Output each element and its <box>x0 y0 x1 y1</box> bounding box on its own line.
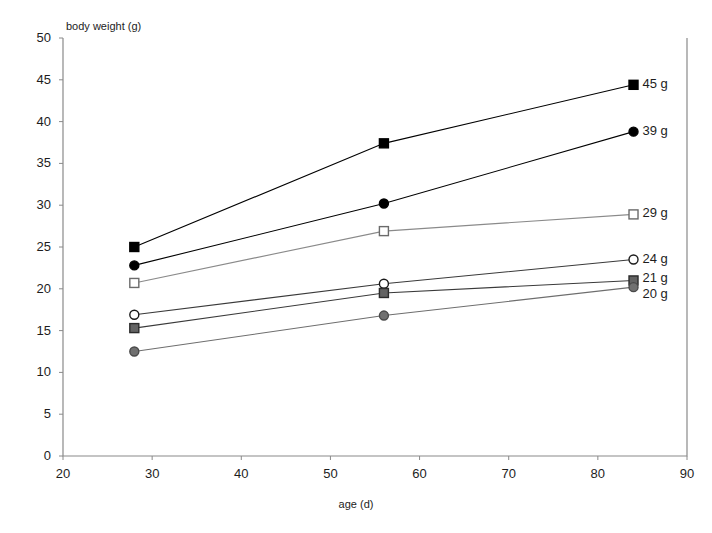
series-line-29-g <box>134 214 633 283</box>
x-tick-label: 40 <box>221 466 261 481</box>
series-line-45-g <box>134 85 633 247</box>
series-label-45-g: 45 g <box>643 76 668 91</box>
marker-filled-square <box>629 80 638 89</box>
marker-filled-circle <box>379 199 388 208</box>
series-label-39-g: 39 g <box>643 123 668 138</box>
x-tick-label: 60 <box>400 466 440 481</box>
marker-gray-circle <box>379 311 388 320</box>
y-tick-label: 50 <box>11 30 51 45</box>
y-tick-label: 40 <box>11 114 51 129</box>
y-tick-label: 45 <box>11 72 51 87</box>
marker-open-square <box>629 210 638 219</box>
x-tick-label: 50 <box>310 466 350 481</box>
marker-gray-square <box>130 324 139 333</box>
marker-gray-circle <box>629 283 638 292</box>
marker-gray-square <box>379 288 388 297</box>
y-tick-label: 0 <box>11 448 51 463</box>
y-tick-label: 5 <box>11 406 51 421</box>
marker-filled-square <box>130 243 139 252</box>
marker-filled-circle <box>130 261 139 270</box>
series-label-29-g: 29 g <box>643 205 668 220</box>
x-tick-label: 80 <box>578 466 618 481</box>
plot-area <box>0 0 712 533</box>
marker-open-circle <box>379 279 388 288</box>
chart-container: body weight (g) age (d) 0510152025303540… <box>0 0 712 533</box>
series-label-20-g: 20 g <box>643 286 668 301</box>
y-tick-label: 25 <box>11 239 51 254</box>
x-tick-label: 30 <box>132 466 172 481</box>
y-tick-label: 35 <box>11 155 51 170</box>
y-tick-label: 30 <box>11 197 51 212</box>
x-tick-label: 70 <box>489 466 529 481</box>
x-tick-label: 90 <box>667 466 707 481</box>
marker-open-square <box>130 278 139 287</box>
marker-filled-square <box>379 139 388 148</box>
y-tick-label: 15 <box>11 323 51 338</box>
data-series-group <box>130 80 638 356</box>
marker-gray-circle <box>130 347 139 356</box>
axis-frame-line <box>63 38 687 456</box>
marker-filled-circle <box>629 127 638 136</box>
marker-open-circle <box>629 255 638 264</box>
y-tick-label: 10 <box>11 364 51 379</box>
series-label-24-g: 24 g <box>643 251 668 266</box>
y-tick-label: 20 <box>11 281 51 296</box>
marker-open-square <box>379 227 388 236</box>
plot-frame <box>59 38 687 460</box>
marker-open-circle <box>130 310 139 319</box>
series-label-21-g: 21 g <box>643 270 668 285</box>
x-tick-label: 20 <box>43 466 83 481</box>
